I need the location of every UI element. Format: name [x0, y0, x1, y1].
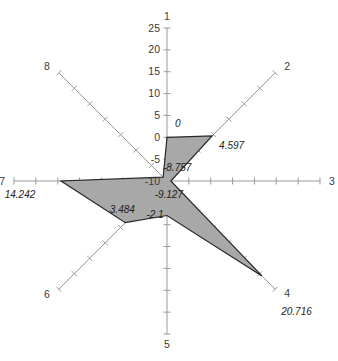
value-label-axis-6: 3.484: [110, 204, 135, 215]
axis-name-label-7: 7: [0, 175, 5, 187]
value-label-axis-1: 0: [175, 118, 181, 129]
value-label-axis-4: 20.716: [280, 306, 312, 317]
value-label-axis-5: -2.1: [146, 209, 163, 220]
radar-chart: 2520151050-5-10 12345678 04.597-9.12720.…: [0, 0, 338, 361]
scale-label-10: 10: [148, 87, 160, 99]
axis-name-label-5: 5: [164, 338, 170, 350]
scale-label-0: 0: [154, 131, 160, 143]
axis-name-label-2: 2: [284, 60, 290, 72]
scale-label-20: 20: [148, 43, 160, 55]
scale-label--5: -5: [151, 153, 160, 165]
scale-label--10: -10: [145, 175, 160, 187]
radar-chart-svg: 2520151050-5-10 12345678 04.597-9.12720.…: [0, 0, 338, 361]
value-label-axis-2: 4.597: [219, 140, 244, 151]
value-labels-group: 04.597-9.12720.716-2.13.48414.242-8.757: [5, 118, 313, 317]
axis-name-label-1: 1: [164, 10, 170, 22]
scale-label-5: 5: [154, 109, 160, 121]
axis-name-label-8: 8: [44, 60, 50, 72]
value-label-axis-7: 14.242: [5, 189, 36, 200]
data-polygon-shape: [61, 136, 262, 276]
data-polygon-group: [61, 136, 262, 276]
axis-name-label-6: 6: [44, 288, 50, 300]
scale-label-25: 25: [148, 22, 160, 34]
axis-name-label-4: 4: [284, 287, 290, 299]
scale-label-15: 15: [148, 65, 160, 77]
value-label-axis-8: -8.757: [163, 162, 192, 173]
value-label-axis-3: -9.127: [155, 189, 184, 200]
axis-name-label-3: 3: [329, 175, 335, 187]
